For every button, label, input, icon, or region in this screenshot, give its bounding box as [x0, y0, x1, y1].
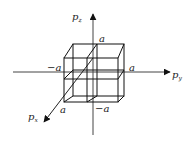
- py-axis-label: py: [172, 69, 182, 82]
- tick-z-pos: a: [99, 33, 105, 44]
- cube-wireframe: [64, 44, 124, 102]
- tick-x-pos: a: [60, 104, 66, 115]
- pz-axis-label: pz: [72, 11, 82, 23]
- px-axis-label: px: [28, 111, 38, 123]
- tick-y-neg: −a: [47, 62, 61, 73]
- tick-y-pos: a: [129, 62, 135, 73]
- diagram-canvas: pz py px a a −a a −a: [0, 0, 193, 141]
- tick-z-neg: −a: [95, 103, 109, 114]
